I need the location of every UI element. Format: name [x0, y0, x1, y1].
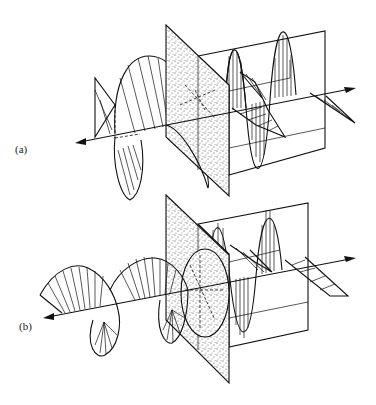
panel-a-vertical-wave	[225, 32, 296, 169]
panel-a-polarizer	[166, 25, 229, 196]
panel-a	[75, 25, 356, 200]
panel-b	[40, 195, 356, 383]
polarization-diagram	[0, 0, 376, 405]
panel-a-horizontal-wave	[232, 72, 355, 137]
